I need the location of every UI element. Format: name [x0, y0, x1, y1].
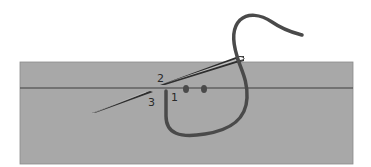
label-point-1: 1	[171, 91, 178, 104]
label-point-2: 2	[157, 72, 164, 85]
knot-2	[201, 85, 207, 93]
stitch-diagram: 1 2 3	[0, 0, 371, 167]
label-point-3: 3	[148, 96, 155, 109]
knot-1	[183, 85, 189, 93]
